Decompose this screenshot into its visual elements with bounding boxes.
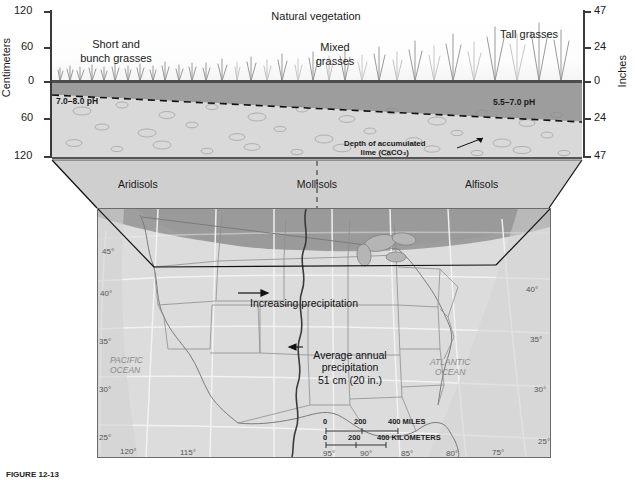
right-axis-tick-1 — [585, 47, 591, 49]
left-axis-tick-2 — [44, 81, 50, 83]
left-axis-value-60-bot: 60 — [21, 111, 33, 123]
figure-soil-precipitation-transect: 7.0–8.0 pH 5.5–7.0 pH Depth of accumulat… — [0, 0, 635, 485]
zone-short-line2: bunch grasses — [80, 52, 152, 66]
longitude-label-115: 115° — [180, 448, 196, 457]
soil-order-alfisols: Alfisols — [465, 178, 498, 190]
latitude-label-left-25: 25° — [99, 433, 111, 442]
soil-order-mollisols: Mollisols — [297, 178, 337, 190]
ocean-pacific-line1: PACIFIC — [110, 355, 143, 365]
ocean-atlantic-line2: OCEAN — [430, 367, 470, 377]
latitude-label-left-40: 40° — [100, 289, 112, 298]
latitude-label-left-35: 35° — [99, 337, 111, 346]
lime-depth-label: Depth of accumulated lime (CaCO₃) — [344, 139, 425, 157]
avg-precip-line2: precipitation — [290, 361, 410, 373]
longitude-label-95: 95° — [323, 449, 335, 458]
left-axis-tick-0 — [44, 11, 50, 13]
right-axis-value-47-bot: 47 — [594, 149, 606, 161]
right-axis-tick-3 — [585, 118, 591, 120]
avg-precip-line3: 51 cm (20 in.) — [290, 374, 410, 386]
map-united-states[interactable]: 45° 40° 35° 30° 25° 40° 35° 30° 25° 120°… — [97, 208, 551, 458]
ocean-label-pacific: PACIFIC OCEAN — [110, 355, 143, 375]
ground-surface-line — [52, 80, 582, 83]
zone-short-line1: Short and — [80, 38, 152, 52]
section-bottom-line — [52, 157, 582, 159]
left-axis-line — [50, 10, 52, 158]
ocean-atlantic-line1: ATLANTIC — [430, 357, 470, 367]
right-axis-value-0: 0 — [594, 74, 600, 86]
right-axis-tick-4 — [585, 156, 591, 158]
latitude-label-left-45: 45° — [102, 247, 114, 256]
scale-km-0: 0 — [323, 433, 327, 442]
latitude-label-right-40: 40° — [526, 285, 538, 294]
longitude-label-120: 120° — [120, 447, 137, 456]
ocean-label-atlantic: ATLANTIC OCEAN — [430, 357, 470, 377]
zone-mixed-line2: grasses — [316, 55, 355, 69]
figure-caption: FIGURE 12-13 — [6, 470, 59, 479]
scale-miles-200: 200 — [354, 417, 367, 426]
right-axis-value-24-top: 24 — [594, 40, 606, 52]
right-axis-tick-0 — [585, 11, 591, 13]
scale-km-200: 200 — [348, 433, 361, 442]
zone-mixed-line1: Mixed — [316, 41, 355, 55]
right-axis-title: Inches — [616, 55, 628, 87]
right-axis-value-24-bot: 24 — [594, 111, 606, 123]
left-axis-tick-4 — [44, 156, 50, 158]
left-axis-value-120-top: 120 — [14, 4, 32, 16]
latitude-label-right-35: 35° — [530, 335, 542, 344]
left-axis-value-120-bot: 120 — [14, 149, 32, 161]
left-axis-value-0: 0 — [28, 74, 34, 86]
lime-depth-leader-line — [457, 136, 497, 152]
right-axis-tick-2 — [585, 81, 591, 83]
right-axis-value-47-top: 47 — [594, 4, 606, 16]
zone-label-short-bunch-grasses: Short and bunch grasses — [80, 38, 152, 66]
latitude-label-left-30: 30° — [99, 385, 111, 394]
ph-label-left: 7.0–8.0 pH — [56, 96, 98, 106]
longitude-label-85: 85° — [401, 449, 413, 458]
left-axis-title: Centimeters — [0, 38, 12, 97]
latitude-label-right-30: 30° — [534, 385, 546, 394]
avg-precip-line1: Average annual — [290, 349, 410, 361]
lime-depth-line2: lime (CaCO₃) — [344, 148, 425, 157]
scale-miles-0: 0 — [323, 417, 327, 426]
left-axis-value-60-top: 60 — [21, 40, 33, 52]
longitude-label-75: 75° — [492, 448, 504, 457]
lime-depth-line1: Depth of accumulated — [344, 139, 425, 148]
scale-km-400: 400 KILOMETERS — [377, 433, 441, 442]
longitude-label-80: 80° — [446, 449, 458, 458]
vegetation-title: Natural vegetation — [271, 10, 360, 22]
soil-order-aridisols: Aridisols — [118, 178, 158, 190]
left-axis-tick-3 — [44, 118, 50, 120]
zone-label-tall-grasses: Tall grasses — [500, 28, 558, 40]
annotation-increasing-precipitation: Increasing precipitation — [250, 297, 358, 309]
ph-label-right: 5.5–7.0 pH — [493, 97, 535, 107]
longitude-label-90: 90° — [360, 449, 372, 458]
latitude-label-right-25: 25° — [538, 437, 550, 446]
scale-miles-400: 400 MILES — [388, 417, 426, 426]
annotation-average-precipitation: Average annual precipitation 51 cm (20 i… — [290, 349, 410, 386]
right-axis-line — [583, 10, 585, 158]
left-axis-tick-1 — [44, 47, 50, 49]
ocean-pacific-line2: OCEAN — [110, 365, 143, 375]
zone-label-mixed-grasses: Mixed grasses — [316, 41, 355, 69]
